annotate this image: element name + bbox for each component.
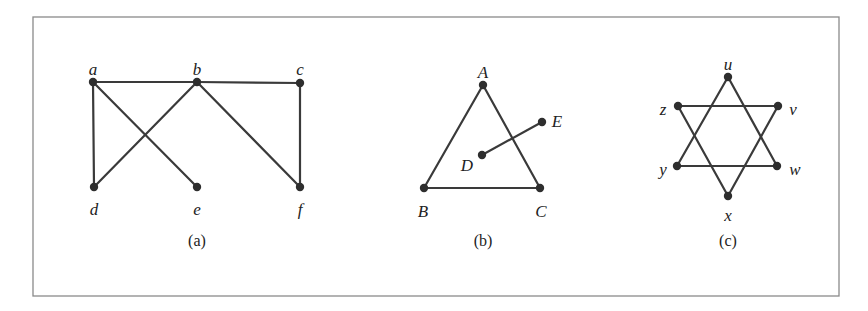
vertex-E: [538, 118, 546, 126]
vertex-B: [420, 184, 428, 192]
vertex-label-b: b: [193, 60, 202, 79]
vertex-C: [536, 184, 544, 192]
vertex-c: [296, 79, 304, 87]
vertex-label-A: A: [477, 63, 489, 82]
vertex-a: [89, 78, 97, 86]
figure-frame: [33, 17, 839, 296]
vertex-u: [724, 73, 732, 81]
edge-b-f: [197, 82, 300, 187]
graph-c: uvwxyz(c): [657, 55, 801, 250]
vertex-label-c: c: [296, 60, 304, 79]
vertex-label-e: e: [193, 200, 201, 219]
vertex-D: [478, 151, 486, 159]
edge-A-B: [424, 85, 483, 188]
edge-v-x: [728, 106, 778, 196]
vertex-label-z: z: [659, 100, 667, 119]
vertex-label-B: B: [418, 202, 429, 221]
vertex-b: [193, 78, 201, 86]
edge-D-E: [482, 122, 542, 155]
vertex-label-C: C: [535, 202, 547, 221]
edge-A-C: [483, 85, 540, 188]
caption-a: (a): [188, 232, 206, 250]
caption-b: (b): [474, 232, 493, 250]
caption-c: (c): [719, 232, 737, 250]
edge-a-d: [93, 82, 94, 187]
vertex-label-f: f: [298, 200, 305, 219]
vertex-x: [724, 192, 732, 200]
vertex-v: [774, 102, 782, 110]
vertex-label-y: y: [657, 160, 667, 179]
vertex-label-v: v: [789, 100, 797, 119]
vertex-f: [296, 183, 304, 191]
edge-u-y: [677, 77, 728, 166]
edge-b-c: [197, 82, 300, 83]
vertex-A: [479, 81, 487, 89]
vertex-w: [773, 162, 781, 170]
vertex-label-D: D: [460, 156, 474, 175]
graph-b: ABCDE(b): [418, 63, 563, 250]
vertex-label-d: d: [90, 200, 99, 219]
vertex-y: [673, 162, 681, 170]
vertex-label-w: w: [789, 160, 801, 179]
vertex-label-a: a: [89, 60, 98, 79]
vertex-label-u: u: [724, 55, 733, 74]
vertex-e: [193, 183, 201, 191]
vertex-z: [674, 102, 682, 110]
vertex-d: [90, 183, 98, 191]
vertex-label-x: x: [723, 206, 732, 225]
vertex-label-E: E: [551, 112, 563, 131]
graph-figure: abcdef(a) ABCDE(b) uvwxyz(c): [0, 0, 868, 311]
graph-a: abcdef(a): [89, 60, 305, 250]
